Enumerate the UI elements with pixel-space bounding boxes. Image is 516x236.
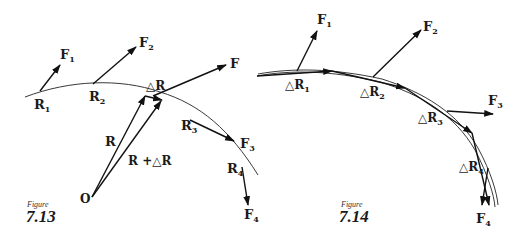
label-origin-o: O (80, 192, 90, 206)
label-r: R (105, 134, 116, 149)
label-delta-r: △R (146, 79, 166, 93)
diagram-canvas: R1 R2 R3 R4 F1 F2 F F3 F4 △R R R +△R O F… (0, 0, 516, 236)
label-f2: F2 (423, 19, 438, 36)
label-delta-r3: △R3 (418, 111, 443, 127)
label-delta-r1: △R1 (285, 78, 310, 94)
label-r1: R1 (34, 97, 50, 114)
label-f4: F4 (244, 207, 259, 224)
figure-7-13: R1 R2 R3 R4 F1 F2 F F3 F4 △R R R +△R O F… (25, 35, 259, 226)
label-delta-r2: △R2 (360, 85, 385, 101)
label-delta-r4: △R4 (459, 160, 484, 176)
label-f1: F1 (317, 12, 332, 29)
force-vector-f2 (93, 47, 136, 84)
force-vector-f2 (373, 30, 421, 77)
label-f4: F4 (476, 211, 491, 228)
label-f2: F2 (139, 35, 154, 52)
caption-number-7-14: 7.14 (339, 207, 369, 226)
label-r4: R4 (227, 161, 244, 178)
caption-number-7-13: 7.13 (26, 207, 56, 226)
label-r3: R3 (181, 118, 198, 135)
position-vector-r-plus-dr (92, 101, 161, 197)
label-r2: R2 (89, 89, 105, 106)
position-vector-r (92, 96, 145, 197)
label-f1: F1 (60, 47, 75, 64)
label-r-plus-delta-r: R +△R (128, 154, 172, 168)
force-vector-f3 (447, 111, 493, 114)
label-f3: F3 (240, 136, 255, 153)
label-f3: F3 (488, 93, 503, 110)
force-vector-f1 (297, 31, 317, 71)
displacement-vector-dr (145, 96, 162, 100)
label-f: F (230, 56, 240, 71)
figure-7-14: F1 F2 F3 F4 △R1 △R2 △R3 △R4 Figure 7.14 (257, 12, 503, 228)
